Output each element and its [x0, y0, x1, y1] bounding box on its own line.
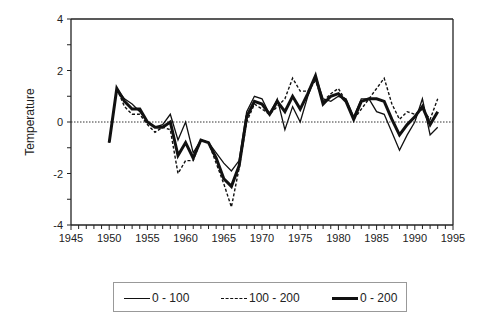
legend: 0 - 100 100 - 200 0 - 200 — [113, 282, 407, 312]
series-line-100-200 — [109, 78, 438, 207]
legend-swatch-solid-thin — [124, 298, 150, 299]
x-tick-label: 1950 — [97, 232, 121, 244]
x-tick-label: 1960 — [173, 232, 197, 244]
x-tick-label: 1995 — [441, 232, 465, 244]
legend-item-100-200: 100 - 200 — [221, 291, 300, 305]
x-tick-label: 1945 — [59, 232, 83, 244]
y-tick-label: 0 — [57, 116, 63, 128]
x-tick-label: 1965 — [212, 232, 236, 244]
series-group — [109, 76, 438, 207]
y-tick-label: 2 — [57, 65, 63, 77]
y-tick-label: 4 — [57, 13, 63, 25]
x-tick-label: 1970 — [250, 232, 274, 244]
legend-label: 0 - 100 — [152, 291, 189, 305]
x-tick-label: 1975 — [288, 232, 312, 244]
legend-item-0-100: 0 - 100 — [124, 291, 189, 305]
legend-swatch-dashed — [221, 298, 247, 299]
x-tick-label: 1985 — [364, 232, 388, 244]
y-tick-label: -2 — [53, 168, 63, 180]
legend-swatch-solid-thick — [332, 297, 358, 300]
legend-label: 100 - 200 — [249, 291, 300, 305]
line-chart: -4-2024194519501955196019651970197519801… — [0, 0, 489, 327]
legend-item-0-200: 0 - 200 — [332, 291, 397, 305]
y-tick-label: -4 — [53, 219, 63, 231]
x-tick-label: 1990 — [403, 232, 427, 244]
y-axis-label: Temperature — [23, 88, 37, 156]
legend-label: 0 - 200 — [360, 291, 397, 305]
x-tick-label: 1980 — [326, 232, 350, 244]
x-tick-label: 1955 — [135, 232, 159, 244]
